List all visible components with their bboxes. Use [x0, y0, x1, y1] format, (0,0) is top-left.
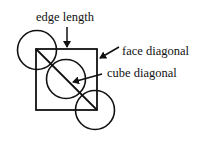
edge-length-label: edge length — [36, 10, 95, 24]
face-diagonal-label: face diagonal — [122, 44, 190, 58]
face-diagonal-arrow — [100, 47, 119, 58]
cube-diagonal-label: cube diagonal — [107, 66, 177, 80]
diagonal-line — [36, 49, 97, 110]
diagram-canvas: edge length face diagonal cube diagonal — [0, 0, 202, 149]
